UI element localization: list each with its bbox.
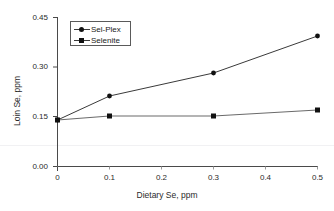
x-axis-title: Dietary Se, ppm	[0, 190, 334, 200]
legend: Sel-Plex Selenite	[70, 21, 131, 46]
x-tick-label-03: 0.3	[199, 173, 229, 182]
legend-label-selenite: Selenite	[90, 36, 120, 45]
x-tick-label-0: 0	[43, 173, 73, 182]
legend-marker-circle-icon	[74, 25, 90, 34]
x-tick-label-02: 0.2	[147, 173, 177, 182]
series-line-selenite	[58, 110, 318, 120]
y-tick-label-045: 0.45	[18, 13, 48, 22]
x-tick-label-05: 0.5	[303, 173, 333, 182]
legend-item-sel-plex: Sel-Plex	[74, 24, 130, 34]
legend-label-sel-plex: Sel-Plex	[90, 25, 121, 34]
legend-marker-square-icon	[74, 36, 90, 45]
y-tick-label-030: 0.30	[18, 62, 48, 71]
y-axis-title: Loin Se, ppm	[12, 51, 22, 151]
series-markers-sel-plex	[55, 34, 320, 123]
chart-figure: 0.45 0.30 0.15 0.00 0 0.1 0.2 0.3 0.4 0.…	[0, 0, 334, 211]
y-tick-label-015: 0.15	[18, 112, 48, 121]
x-axis-ticks	[58, 167, 318, 172]
series-markers-selenite	[55, 108, 320, 123]
x-tick-label-01: 0.1	[95, 173, 125, 182]
x-tick-label-04: 0.4	[251, 173, 281, 182]
y-axis-ticks	[53, 18, 58, 167]
y-tick-label-000: 0.00	[18, 162, 48, 171]
series-line-sel-plex	[58, 36, 318, 120]
legend-item-selenite: Selenite	[74, 35, 130, 45]
